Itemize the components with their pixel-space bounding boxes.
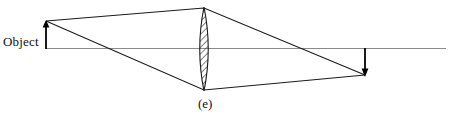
converging-lens bbox=[200, 7, 209, 91]
lens-hatching bbox=[200, 7, 209, 91]
image-arrow bbox=[362, 48, 369, 77]
figure-caption: (e) bbox=[198, 97, 212, 110]
figure-container: Object (e) bbox=[0, 0, 453, 119]
object-label: Object bbox=[3, 35, 39, 48]
object-arrow bbox=[43, 20, 50, 49]
ray-diagram-svg bbox=[0, 0, 453, 119]
